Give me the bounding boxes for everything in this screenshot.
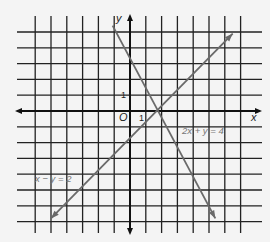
origin-label: O xyxy=(119,111,128,123)
y-axis-arrow-icon xyxy=(127,14,133,21)
arrowhead-icon xyxy=(209,210,215,218)
y-axis-arrow-down-icon xyxy=(127,228,133,235)
x-axis-arrow-left-icon xyxy=(15,108,22,114)
line-label-x-minus-y: x − y = 2 xyxy=(34,173,72,184)
x-axis-label: x xyxy=(250,111,257,123)
grid-lines xyxy=(17,16,262,233)
line-label-2x-plus-y: 2x + y = 4 xyxy=(181,125,224,136)
coordinate-graph: y x O 1 1 2x + y = 4 x − y = 2 xyxy=(0,0,270,242)
y-unit-label: 1 xyxy=(121,90,126,100)
x-unit-label: 1 xyxy=(139,113,144,123)
y-axis-label: y xyxy=(115,12,123,24)
